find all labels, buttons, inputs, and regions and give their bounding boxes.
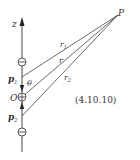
positive-charge-origin — [18, 93, 26, 101]
z-axis-arrowhead — [20, 17, 25, 26]
r2-label: r2 — [64, 73, 71, 83]
line-r1 — [22, 15, 118, 77]
negative-charge-top — [18, 58, 26, 66]
origin-label: O — [10, 93, 18, 103]
p1-arrowhead — [20, 85, 24, 92]
z-axis-label: z — [11, 19, 17, 29]
line-r — [22, 15, 118, 97]
quadrupole-diagram: z P r1 r r2 p1 θ O p2 (4.10.10) — [0, 0, 140, 160]
dipole-p2-label: p2 — [8, 112, 17, 123]
negative-charge-bottom — [18, 128, 26, 136]
p2-arrowhead — [20, 102, 24, 109]
dipole-p1-label: p1 — [8, 74, 17, 85]
r1-sub: 1 — [64, 44, 67, 50]
r2-sub: 2 — [67, 77, 71, 83]
theta-label: θ — [27, 79, 32, 88]
point-p-label: P — [117, 8, 125, 18]
r-label: r — [59, 56, 64, 65]
p2-sub: 2 — [13, 117, 17, 123]
p1-sub: 1 — [14, 79, 17, 85]
r1-label: r1 — [60, 40, 67, 50]
equation-number: (4.10.10) — [75, 95, 116, 105]
